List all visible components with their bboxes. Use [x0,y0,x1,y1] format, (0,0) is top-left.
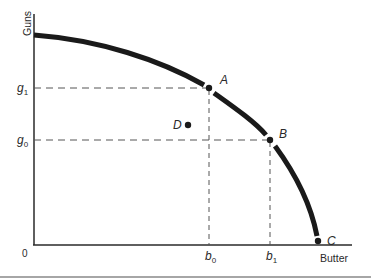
point-b-label: B [279,127,287,141]
point-a-label: A [219,73,228,87]
point-d [185,122,191,128]
x-axis-label: Butter [320,252,349,264]
ppf-diagram: A B C D Guns Butter 0 g1 g0 b0 b1 [0,0,371,279]
point-d-label: D [173,118,182,132]
ppf-curve [34,35,317,236]
y-axis-label: Guns [21,11,33,36]
origin-label: 0 [22,248,28,259]
point-a [206,85,212,91]
b0-label: b0 [205,249,217,265]
g1-label: g1 [17,81,29,97]
b1-label: b1 [266,249,278,265]
point-b [267,137,273,143]
point-c-label: C [327,234,336,248]
g0-label: g0 [17,133,29,149]
point-c [315,238,321,244]
